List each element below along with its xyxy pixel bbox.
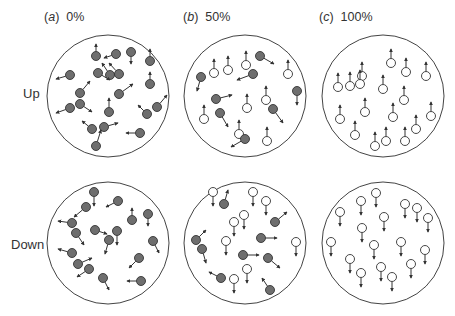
particle-open [387, 59, 396, 68]
particle-open [242, 61, 251, 70]
particle-open [413, 204, 422, 213]
spin-arrow-icon [82, 258, 92, 262]
particle-open [351, 131, 360, 140]
spin-arrow-icon [199, 230, 206, 237]
particle-open [336, 208, 345, 217]
particle-open [240, 211, 249, 220]
particle-open [284, 70, 293, 79]
particle-filled [85, 265, 94, 274]
particle-filled [105, 108, 114, 117]
spin-arrow-icon [108, 123, 118, 126]
particle-open [243, 265, 252, 274]
particle-open [263, 137, 272, 146]
spin-arrow-icon [237, 76, 249, 80]
spin-arrow-icon [105, 282, 109, 290]
particle-open [200, 115, 209, 124]
particle-filled [239, 251, 248, 260]
particle-open [389, 113, 398, 122]
spin-arrow-icon [160, 95, 167, 104]
particle-open [356, 80, 365, 89]
spin-arrow-icon [106, 203, 114, 207]
particle-open [388, 273, 397, 282]
particle-open [357, 197, 366, 206]
particle-filled [135, 254, 144, 263]
particle-filled [197, 73, 206, 82]
particle-filled [192, 236, 201, 245]
spin-arrow-icon [278, 212, 287, 219]
spin-arrow-icon [123, 84, 133, 91]
spin-arrow-icon [104, 55, 112, 58]
spin-arrow-icon [155, 245, 159, 253]
particle-filled [264, 254, 273, 263]
circle-down-b [184, 182, 306, 304]
spin-arrow-icon [56, 76, 66, 79]
particle-open [371, 142, 380, 151]
particle-filled [217, 274, 226, 283]
spin-arrow-icon [129, 261, 136, 268]
particle-open [230, 275, 239, 284]
spin-arrow-icon [271, 261, 280, 268]
particle-filled [249, 70, 258, 79]
particle-open [222, 237, 231, 246]
particle-filled [115, 90, 124, 99]
spin-arrow-icon [58, 221, 68, 222]
particle-filled [66, 71, 75, 80]
spin-arrow-icon [109, 63, 116, 71]
particle-open [210, 69, 219, 78]
particle-open [224, 66, 233, 75]
spin-arrow-icon [222, 117, 228, 127]
particle-open [334, 83, 343, 92]
particle-filled [68, 249, 77, 258]
particle-filled [91, 226, 100, 235]
particle-open [346, 255, 355, 264]
spin-arrow-icon [220, 95, 232, 98]
spin-arrow-icon [58, 249, 68, 252]
particle-filled [68, 219, 77, 228]
spin-arrow-icon [105, 244, 108, 254]
particle-open [230, 218, 239, 227]
particle-open [249, 188, 258, 197]
particle-filled [127, 48, 136, 57]
spin-diagram [0, 0, 455, 316]
spin-arrow-icon [83, 81, 90, 90]
circle-up-a [47, 35, 169, 157]
particle-filled [90, 188, 99, 197]
particle-open [292, 238, 301, 247]
particle-open [407, 260, 416, 269]
circle-up-c [322, 35, 444, 157]
particle-open [262, 197, 271, 206]
particle-filled [113, 227, 122, 236]
particle-filled [74, 260, 83, 269]
particle-open [262, 96, 271, 105]
particle-open [412, 125, 421, 134]
particle-open [372, 189, 381, 198]
particle-open [400, 96, 409, 105]
particle-open [382, 137, 391, 146]
particle-open [379, 85, 388, 94]
particle-filled [136, 129, 145, 138]
particle-open [336, 115, 345, 124]
particle-filled [241, 135, 250, 144]
particle-open [327, 238, 336, 247]
particle-filled [94, 69, 103, 78]
spin-arrow-icon [56, 110, 66, 113]
particle-open [370, 241, 379, 250]
particle-filled [216, 109, 225, 118]
particle-open [421, 246, 430, 255]
particle-filled [66, 104, 75, 113]
particle-filled [269, 105, 278, 114]
particle-open [243, 104, 252, 113]
spin-arrow-icon [102, 63, 108, 71]
particle-open [377, 263, 386, 272]
spin-arrow-icon [99, 231, 107, 234]
particle-filled [115, 70, 124, 79]
particle-filled [146, 80, 155, 89]
particle-open [358, 72, 367, 81]
particle-filled [257, 234, 266, 243]
particle-open [401, 200, 410, 209]
particle-filled [266, 286, 275, 295]
spin-arrow-icon [197, 81, 200, 91]
particle-filled [76, 89, 85, 98]
particle-filled [153, 103, 162, 112]
particle-filled [72, 229, 81, 238]
